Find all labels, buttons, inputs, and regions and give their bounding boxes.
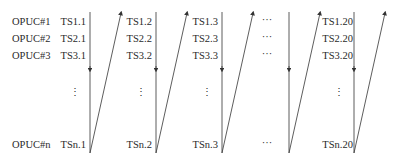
timeslot-cell: TS3.2 [112, 50, 152, 62]
timeslot-cell: TS1.3 [178, 16, 218, 28]
row-label-opuc-1: OPUC#1 [12, 16, 51, 28]
timeslot-cell: TSn.3 [178, 139, 218, 151]
timeslot-cell: TS2.1 [46, 33, 86, 45]
column-20-arrows [354, 12, 385, 153]
column-3-arrows [222, 12, 253, 153]
timeslot-cell: TSn.20 [311, 139, 353, 151]
timeslot-cell: TS3.1 [46, 50, 86, 62]
timeslot-cell: TSn.2 [112, 139, 152, 151]
row-label-opuc-n: OPUC#n [12, 139, 51, 151]
timeslot-cell: TS2.2 [112, 33, 152, 45]
horizontal-ellipsis: ··· [257, 48, 277, 60]
timeslot-cell: TSn.1 [46, 139, 86, 151]
timeslot-cell: TS1.1 [46, 16, 86, 28]
timeslot-cell: TS2.3 [178, 33, 218, 45]
timeslot-cell: TS2.20 [311, 33, 353, 45]
horizontal-ellipsis: ··· [257, 14, 277, 26]
timeslot-cell: TS1.20 [311, 16, 353, 28]
opuc-timeslot-diagram: OPUC#1 OPUC#2 OPUC#3 OPUC#n TS1.1 TS2.1 … [0, 0, 396, 162]
row-label-opuc-3: OPUC#3 [12, 50, 51, 62]
vertical-ellipsis: ⋮ [136, 90, 144, 94]
horizontal-ellipsis: ··· [257, 137, 277, 149]
horizontal-ellipsis: ··· [257, 31, 277, 43]
timeslot-cell: TS1.2 [112, 16, 152, 28]
vertical-ellipsis: ⋮ [334, 90, 342, 94]
timeslot-cell: TS3.20 [311, 50, 353, 62]
vertical-ellipsis: ⋮ [202, 90, 210, 94]
vertical-ellipsis: ⋮ [70, 90, 78, 94]
row-label-opuc-2: OPUC#2 [12, 33, 51, 45]
timeslot-cell: TS3.3 [178, 50, 218, 62]
